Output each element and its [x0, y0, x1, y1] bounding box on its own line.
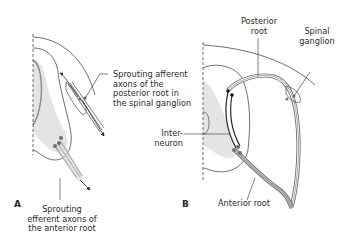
- label-posterior-root: Posterior root: [239, 17, 279, 36]
- label-sprouting-efferent-axons: Sprouting efferent axons of the anterior…: [24, 205, 100, 234]
- label-sprouting-afferent-axons: Sprouting afferent axons of the posterio…: [113, 70, 191, 108]
- label-spinal-ganglion: Spinal ganglion: [295, 27, 339, 46]
- panel-a-illustration: [33, 34, 108, 200]
- panel-letter-a: A: [14, 199, 21, 209]
- label-anterior-root: Anterior root: [218, 199, 270, 209]
- panel-b-illustration: [184, 38, 315, 208]
- label-interneuron: Inter- neuron: [143, 129, 183, 148]
- panel-letter-b: B: [182, 199, 189, 209]
